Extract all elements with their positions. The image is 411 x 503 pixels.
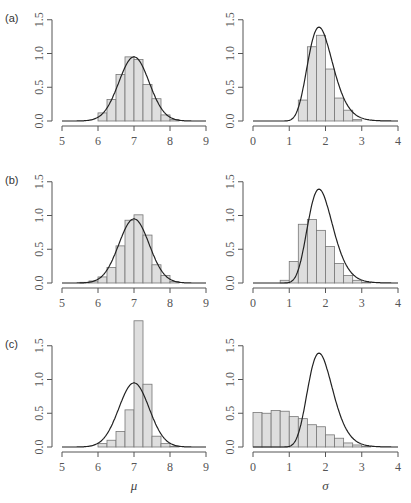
- histogram-bar: [161, 276, 170, 283]
- x-tick-label: 5: [59, 296, 65, 310]
- histogram-bar: [326, 69, 335, 121]
- histogram-bar: [152, 99, 161, 121]
- x-tick-label: 0: [250, 134, 256, 148]
- x-tick-label: 6: [95, 296, 101, 310]
- x-tick-label: 8: [167, 134, 173, 148]
- y-tick-label: 0.0: [223, 114, 237, 129]
- histogram-bar: [353, 280, 362, 283]
- y-tick-label: 0.0: [223, 440, 237, 455]
- histogram-bar: [307, 425, 316, 447]
- y-tick-label: 1.0: [223, 46, 237, 61]
- histogram-bar: [143, 384, 152, 447]
- y-tick-label: 1.5: [223, 338, 237, 353]
- x-tick-label: 9: [203, 460, 209, 474]
- y-tick-label: 1.0: [32, 372, 46, 387]
- panel-label: (c): [5, 338, 18, 350]
- y-tick-label: 1.5: [223, 12, 237, 27]
- histogram-bar: [134, 60, 143, 121]
- histogram-bar: [116, 246, 125, 283]
- histogram-bar: [353, 445, 362, 447]
- y-tick-label: 0.5: [223, 406, 237, 421]
- y-tick-label: 1.0: [223, 208, 237, 223]
- y-tick-label: 1.5: [32, 338, 46, 353]
- y-tick-label: 0.5: [32, 242, 46, 257]
- histogram-bar: [125, 410, 134, 447]
- x-axis-label: μ: [130, 478, 138, 493]
- histogram-bar: [107, 99, 116, 121]
- y-tick-label: 0.0: [223, 276, 237, 291]
- x-tick-label: 7: [131, 296, 137, 310]
- histogram-bar: [326, 435, 335, 447]
- histogram-bar: [125, 57, 134, 121]
- histogram-bar: [316, 427, 325, 447]
- x-tick-label: 0: [250, 460, 256, 474]
- histogram-bar: [335, 438, 344, 447]
- histogram-bar: [262, 413, 271, 447]
- y-tick-label: 0.5: [32, 80, 46, 95]
- x-tick-label: 8: [167, 460, 173, 474]
- histogram-bar: [143, 235, 152, 283]
- panel-label: (b): [5, 174, 18, 186]
- y-tick-label: 0.0: [32, 114, 46, 129]
- histogram-bar: [335, 98, 344, 121]
- histogram-bar: [326, 247, 335, 283]
- y-tick-label: 0.5: [32, 406, 46, 421]
- histogram-bar: [152, 436, 161, 447]
- y-tick-label: 1.0: [223, 372, 237, 387]
- x-tick-label: 0: [250, 296, 256, 310]
- y-tick-label: 0.5: [223, 80, 237, 95]
- x-tick-label: 7: [131, 134, 137, 148]
- histogram-bar: [335, 263, 344, 283]
- histogram-bar: [98, 444, 107, 447]
- histogram-bar: [125, 220, 134, 283]
- histogram-bar: [116, 74, 125, 121]
- histogram-bar: [298, 419, 307, 447]
- x-tick-label: 5: [59, 134, 65, 148]
- histogram-bar: [344, 110, 353, 121]
- y-tick-label: 1.5: [32, 12, 46, 27]
- x-tick-label: 1: [286, 460, 292, 474]
- x-tick-label: 4: [395, 460, 401, 474]
- y-tick-label: 1.0: [32, 46, 46, 61]
- x-tick-label: 6: [95, 460, 101, 474]
- figure: 0.00.51.01.556789(a)0.00.51.01.5012340.0…: [0, 0, 411, 503]
- x-tick-label: 2: [323, 460, 329, 474]
- histogram-bar: [353, 120, 362, 121]
- x-tick-label: 4: [395, 296, 401, 310]
- histogram-bar: [134, 215, 143, 283]
- x-tick-label: 3: [359, 134, 365, 148]
- histogram-bar: [107, 267, 116, 283]
- x-tick-label: 2: [323, 134, 329, 148]
- histogram-bar: [316, 230, 325, 283]
- histogram-bar: [307, 220, 316, 283]
- x-tick-label: 8: [167, 296, 173, 310]
- x-tick-label: 9: [203, 134, 209, 148]
- y-tick-label: 1.5: [223, 174, 237, 189]
- histogram-bar: [271, 411, 280, 447]
- histogram-bar: [280, 411, 289, 447]
- histogram-bar: [134, 321, 143, 447]
- histogram-bar: [344, 443, 353, 447]
- panel-label: (a): [5, 12, 18, 24]
- x-axis-label: σ: [322, 478, 329, 493]
- x-tick-label: 1: [286, 296, 292, 310]
- histogram-bar: [344, 276, 353, 283]
- x-tick-label: 5: [59, 460, 65, 474]
- y-tick-label: 0.5: [223, 242, 237, 257]
- histogram-bar: [107, 440, 116, 447]
- x-tick-label: 7: [131, 460, 137, 474]
- x-tick-label: 4: [395, 134, 401, 148]
- y-tick-label: 1.0: [32, 208, 46, 223]
- y-tick-label: 0.0: [32, 440, 46, 455]
- histogram-bar: [161, 444, 170, 447]
- x-tick-label: 3: [359, 296, 365, 310]
- x-tick-label: 3: [359, 460, 365, 474]
- x-tick-label: 2: [323, 296, 329, 310]
- histogram-bar: [253, 413, 262, 447]
- y-tick-label: 0.0: [32, 276, 46, 291]
- x-tick-label: 9: [203, 296, 209, 310]
- x-tick-label: 1: [286, 134, 292, 148]
- y-tick-label: 1.5: [32, 174, 46, 189]
- histogram-bar: [143, 85, 152, 121]
- x-tick-label: 6: [95, 134, 101, 148]
